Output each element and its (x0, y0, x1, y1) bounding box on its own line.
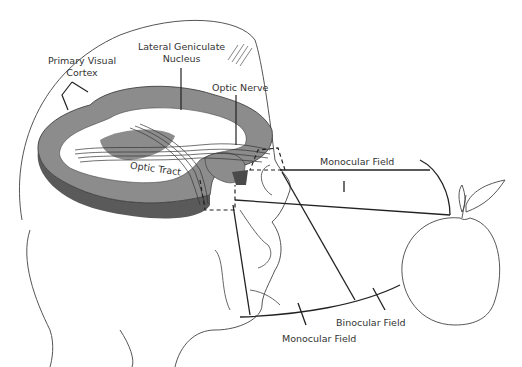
label-monocular-field-top: Monocular Field (320, 156, 394, 168)
label-lateral-geniculate-nucleus: Lateral Geniculate Nucleus (138, 41, 225, 65)
label-text: Lateral Geniculate (138, 41, 225, 53)
label-monocular-field-bottom: Monocular Field (282, 333, 356, 345)
label-binocular-field: Binocular Field (336, 317, 406, 329)
label-leader-lines (0, 0, 522, 367)
label-optic-nerve: Optic Nerve (212, 82, 268, 94)
label-text: Nucleus (138, 53, 225, 65)
visual-pathway-diagram: Primary Visual Cortex Lateral Geniculate… (0, 0, 522, 367)
